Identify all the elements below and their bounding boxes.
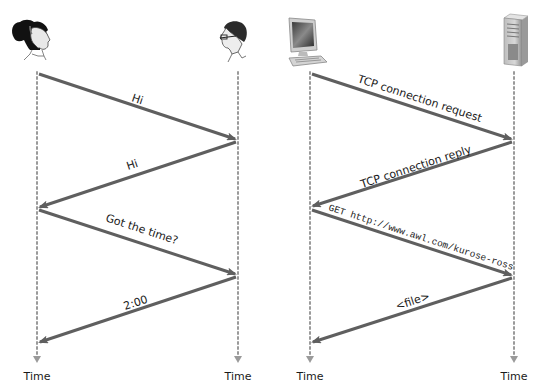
message-arrow-hi-1 [39,74,235,139]
man-time-label: Time [224,370,252,383]
man-timeline-arrowhead [234,356,242,363]
message-arrow-http-get [312,210,511,275]
right-panel: TCP connection request TCP connection re… [289,14,528,383]
protocol-diagram: Hi Hi Got the time? 2:00 Time Time [0,0,539,389]
message-label-got-the-time: Got the time? [104,211,180,247]
client-timeline-arrowhead [306,356,314,363]
desktop-computer-icon [289,18,327,66]
left-panel: Hi Hi Got the time? 2:00 Time Time [12,20,252,383]
message-label-hi-2: Hi [125,157,140,173]
man-head-icon [220,21,247,62]
message-arrow-file [313,278,512,342]
woman-timeline-arrowhead [33,356,41,363]
client-time-label: Time [296,370,324,383]
woman-time-label: Time [23,370,51,383]
server-time-label: Time [500,370,528,383]
message-arrow-tcp-request [312,74,511,139]
message-label-tcp-request: TCP connection request [355,72,484,125]
message-label-http-get: GET http://www.awl.com/kurose-ross [327,202,515,272]
message-arrow-2-00 [40,277,236,342]
message-arrow-got-the-time [39,210,235,274]
message-arrow-hi-2 [40,142,236,207]
server-timeline-arrowhead [510,356,518,363]
server-tower-icon [504,14,528,66]
message-label-tcp-reply: TCP connection reply [358,143,473,192]
woman-head-icon [12,20,50,60]
